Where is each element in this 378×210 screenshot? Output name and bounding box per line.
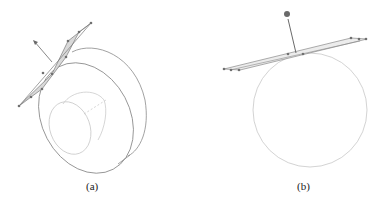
sphere-marker-icon bbox=[284, 11, 290, 17]
panel-a-drawing bbox=[18, 22, 152, 190]
panel-b-drawing bbox=[223, 11, 368, 167]
normal-vector bbox=[288, 19, 296, 53]
normal-arrow bbox=[34, 41, 52, 62]
cylinder-back-rim bbox=[72, 48, 146, 156]
inner-hole-front bbox=[42, 96, 98, 160]
caption-b: (b) bbox=[297, 180, 310, 192]
cylinder-front-rim bbox=[20, 46, 152, 190]
caption-a: (a) bbox=[86, 180, 98, 192]
figure-canvas bbox=[0, 0, 378, 210]
cylinder-edge bbox=[118, 155, 130, 164]
inner-hole-back bbox=[63, 92, 106, 140]
axis-line bbox=[84, 100, 106, 114]
profile-circle bbox=[253, 53, 367, 167]
